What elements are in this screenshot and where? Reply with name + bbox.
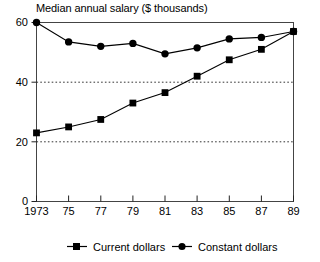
data-point-circle — [226, 35, 233, 42]
y-tick-label-40: 40 — [16, 76, 28, 88]
x-tick-label-85: 85 — [223, 205, 235, 217]
legend-marker-square-icon — [73, 243, 80, 250]
data-point-square — [226, 56, 233, 63]
legend-marker-circle-icon — [178, 243, 185, 250]
x-tick-label-83: 83 — [191, 205, 203, 217]
data-point-circle — [193, 44, 200, 51]
x-tick-label-89: 89 — [287, 205, 299, 217]
data-point-circle — [97, 43, 104, 50]
chart-svg: 60 40 20 0 1973 75 77 79 81 83 85 87 89 — [0, 0, 320, 262]
data-point-square — [65, 124, 72, 131]
data-point-circle — [33, 19, 40, 26]
data-point-circle — [129, 40, 136, 47]
data-point-square — [162, 89, 169, 96]
x-axis-ticks — [37, 196, 294, 202]
x-tick-label-75: 75 — [62, 205, 74, 217]
x-tick-label-81: 81 — [159, 205, 171, 217]
data-point-circle — [258, 34, 265, 41]
series-line — [37, 23, 294, 54]
data-point-circle — [161, 50, 168, 57]
chart-title: Median annual salary ($ thousands) — [36, 2, 207, 14]
x-tick-label-1973: 1973 — [24, 205, 48, 217]
data-point-square — [33, 129, 40, 136]
series-constant-dollars — [33, 19, 297, 58]
data-point-square — [258, 46, 265, 53]
legend-label-constant-dollars: Constant dollars — [198, 241, 278, 253]
x-tick-label-87: 87 — [255, 205, 267, 217]
y-tick-label-20: 20 — [16, 136, 28, 148]
x-tick-label-77: 77 — [95, 205, 107, 217]
data-series-layer — [33, 19, 297, 136]
y-tick-label-60: 60 — [16, 16, 28, 28]
plot-frame — [37, 23, 294, 202]
data-point-square — [194, 73, 201, 80]
data-point-square — [129, 100, 136, 107]
x-tick-label-79: 79 — [127, 205, 139, 217]
y-axis-ticks — [32, 23, 37, 202]
chart-figure: Median annual salary ($ thousands) 60 40… — [0, 0, 320, 262]
data-point-circle — [290, 28, 297, 35]
chart-legend: Current dollars Constant dollars — [67, 241, 278, 253]
data-point-square — [97, 116, 104, 123]
legend-label-current-dollars: Current dollars — [93, 241, 166, 253]
data-point-circle — [65, 38, 72, 45]
